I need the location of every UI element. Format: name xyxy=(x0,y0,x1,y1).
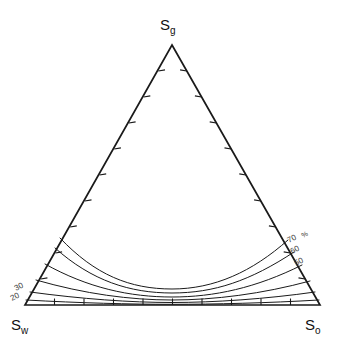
contour-labels-left: 30 20 xyxy=(9,280,26,302)
tick-left-6 xyxy=(114,148,121,149)
tick-left-9 xyxy=(158,70,165,71)
ticks-left-edge xyxy=(41,70,165,279)
tick-left-7 xyxy=(129,122,136,123)
ternary-diagram: S g S w S o 70 % 60 50 30 20 xyxy=(0,0,344,349)
tick-left-3 xyxy=(70,226,77,227)
vertex-top-subscript: g xyxy=(170,25,176,36)
tick-left-5 xyxy=(100,174,107,175)
vertex-label-bottom-right: S o xyxy=(305,316,321,336)
contour-label-20: 20 xyxy=(9,290,22,302)
contour-line-60 xyxy=(55,248,294,293)
tick-left-1 xyxy=(41,278,48,279)
contour-labels-right: 70 % 60 50 xyxy=(286,230,309,268)
contour-family xyxy=(26,238,319,304)
ternary-plot-svg: S g S w S o 70 % 60 50 30 20 xyxy=(0,0,344,349)
tick-left-4 xyxy=(85,200,92,201)
contour-line-70 xyxy=(60,238,288,289)
tick-left-8 xyxy=(144,96,151,97)
vertex-left-subscript: w xyxy=(20,325,29,336)
vertex-label-bottom-left: S w xyxy=(11,316,29,336)
triangle-outline xyxy=(25,45,320,305)
vertex-right-symbol: S xyxy=(305,316,315,333)
vertex-label-top: S g xyxy=(160,16,176,36)
contour-label-70: 70 xyxy=(286,232,299,244)
vertex-left-symbol: S xyxy=(11,316,21,333)
contour-label-50: 50 xyxy=(293,255,306,267)
percent-sign-label: % xyxy=(300,230,309,239)
vertex-right-subscript: o xyxy=(315,325,321,336)
vertex-top-symbol: S xyxy=(160,16,170,33)
